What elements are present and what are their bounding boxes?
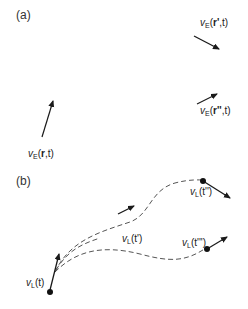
label-vl-t-double-prime-upper: vL(t''): [190, 187, 212, 198]
arrow-vl-t: [50, 254, 59, 290]
arrow-ve-r-double-prime: [197, 94, 217, 104]
point-vl-t: [47, 289, 53, 295]
panel-b-trajectories: [55, 180, 206, 272]
label-ve-r: vE(r,t): [28, 149, 54, 160]
arrow-vl-t-prime: [118, 206, 134, 214]
point-vl-t-double-prime-upper: [200, 178, 206, 184]
label-vl-t: vL(t): [26, 278, 44, 289]
label-vl-t-double-prime-lower: vL(t'''): [182, 238, 206, 249]
panel-label-a: (a): [16, 8, 31, 22]
label-ve-r-double-prime: vE(r'',t): [200, 106, 231, 117]
arrow-ve-r: [42, 101, 53, 137]
label-ve-r-prime: vE(r',t): [200, 18, 228, 29]
arrow-vl-t-double-prime-lower: [207, 237, 227, 249]
panel-a-arrows: [42, 36, 219, 137]
panel-label-b: (b): [16, 174, 31, 188]
trajectory-upper: [55, 180, 204, 272]
trajectory-lower: [55, 248, 206, 272]
arrow-ve-r-prime: [194, 36, 219, 49]
label-vl-t-prime: vL(t'): [122, 234, 142, 245]
